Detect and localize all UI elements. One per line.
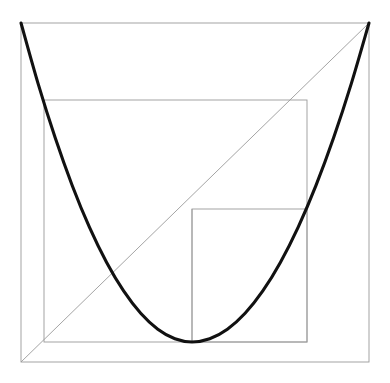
- figure-container: [0, 0, 390, 383]
- parabola-figure: [0, 0, 390, 383]
